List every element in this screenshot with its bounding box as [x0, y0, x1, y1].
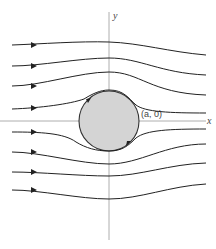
flow-arrow-icon: [31, 169, 37, 175]
flow-arrow-icon: [31, 105, 37, 111]
flow-arrow-icon: [31, 42, 37, 48]
flow-arrow-icon: [31, 63, 37, 69]
flow-arrow-icon: [31, 129, 37, 135]
x-axis-label: x: [206, 115, 212, 126]
y-axis-label: y: [112, 10, 118, 21]
diagram-container: y x (a, 0): [0, 0, 216, 249]
flow-diagram: y x (a, 0): [0, 0, 216, 249]
